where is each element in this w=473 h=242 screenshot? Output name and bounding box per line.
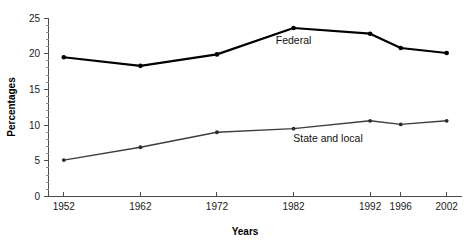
series-label-federal: Federal xyxy=(276,34,312,46)
data-point-state-and-local xyxy=(62,158,66,162)
x-tick-label: 1962 xyxy=(129,201,152,212)
series-markers-federal xyxy=(62,26,449,68)
y-tick-label: 20 xyxy=(29,48,41,59)
data-point-federal xyxy=(444,51,449,56)
x-tick-label: 1982 xyxy=(282,201,305,212)
series-markers-state-and-local xyxy=(62,119,449,162)
x-tick-label: 2002 xyxy=(436,201,459,212)
x-tick-label: 1952 xyxy=(53,201,76,212)
chart-container: 0510152025 1952196219721982199219962002 … xyxy=(0,0,473,242)
y-axis-major-ticks xyxy=(44,18,49,197)
data-point-federal xyxy=(138,64,143,69)
data-point-state-and-local xyxy=(368,119,372,123)
series-label-state-and-local: State and local xyxy=(293,132,362,144)
x-axis-tick-labels: 1952196219721982199219962002 xyxy=(53,201,459,212)
y-tick-label: 15 xyxy=(29,84,41,95)
data-point-state-and-local xyxy=(215,130,219,134)
data-point-state-and-local xyxy=(138,145,142,149)
data-point-federal xyxy=(291,26,296,31)
data-point-federal xyxy=(215,52,220,57)
y-tick-label: 25 xyxy=(29,13,41,24)
data-point-federal xyxy=(368,31,373,36)
y-tick-label: 5 xyxy=(34,155,40,166)
series-line-federal xyxy=(64,28,447,66)
x-axis-title: Years xyxy=(232,226,259,237)
data-point-state-and-local xyxy=(399,122,403,126)
y-axis-title: Percentages xyxy=(6,77,17,137)
data-point-state-and-local xyxy=(445,119,449,123)
y-tick-label: 0 xyxy=(34,191,40,202)
x-tick-label: 1972 xyxy=(206,201,229,212)
x-tick-label: 1996 xyxy=(390,201,413,212)
line-chart: 0510152025 1952196219721982199219962002 … xyxy=(0,0,473,242)
y-tick-label: 10 xyxy=(29,120,41,131)
data-point-state-and-local xyxy=(292,127,296,131)
data-point-federal xyxy=(62,55,67,60)
y-axis-tick-labels: 0510152025 xyxy=(29,13,41,203)
data-point-federal xyxy=(398,46,403,51)
x-tick-label: 1992 xyxy=(359,201,382,212)
x-axis-ticks xyxy=(64,192,447,197)
series-line-state-and-local xyxy=(64,121,447,160)
